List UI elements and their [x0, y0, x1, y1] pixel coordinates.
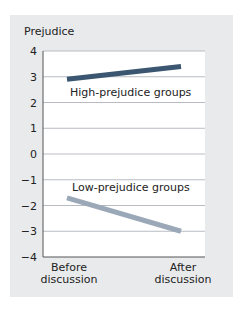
x-category-before: Before discussion [34, 262, 104, 286]
x-category-after-line2: discussion [148, 274, 218, 286]
x-category-after: After discussion [148, 262, 218, 286]
y-axis-ticks: 43210−1−2−3−4 [21, 45, 37, 264]
y-tick-label: 0 [30, 148, 37, 161]
y-tick-label: −1 [21, 174, 37, 187]
y-tick-label: −2 [21, 200, 37, 213]
series-label-high-prejudice: High-prejudice groups [70, 86, 192, 99]
x-category-before-line2: discussion [34, 274, 104, 286]
y-tick-label: 4 [30, 45, 37, 58]
y-tick-label: 2 [30, 97, 37, 110]
y-tick-label: 1 [30, 122, 37, 135]
y-tick-label: 3 [30, 71, 37, 84]
series-label-low-prejudice: Low-prejudice groups [72, 181, 190, 194]
y-tick-label: −3 [21, 225, 37, 238]
